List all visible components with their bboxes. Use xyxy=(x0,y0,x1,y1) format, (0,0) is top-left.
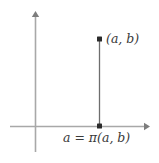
y-axis-arrowhead-icon xyxy=(32,11,39,17)
x-axis-arrowhead-icon xyxy=(144,123,150,130)
y-axis xyxy=(32,11,39,152)
point-ab-label: (a, b) xyxy=(106,33,139,46)
projection-equation-label: a = π(a, b) xyxy=(63,132,130,145)
point-projection-marker xyxy=(97,124,102,129)
projection-diagram-figure: (a, b) a = π(a, b) xyxy=(0,0,159,163)
point-ab-marker xyxy=(97,37,102,42)
